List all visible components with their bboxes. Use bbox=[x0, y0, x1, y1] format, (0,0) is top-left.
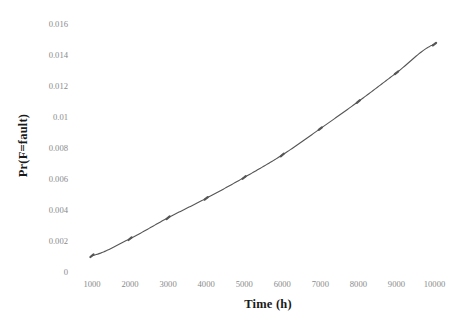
data-point-marker bbox=[357, 100, 360, 103]
data-point-marker bbox=[90, 254, 93, 257]
data-point-marker bbox=[281, 154, 284, 157]
x-axis-tick-label: 4000 bbox=[198, 279, 215, 289]
x-axis-tick-label: 9000 bbox=[388, 279, 405, 289]
x-axis-tick-labels: 1000200030004000500060007000800090001000… bbox=[0, 279, 469, 293]
data-series-line bbox=[92, 44, 435, 256]
x-axis-tick-label: 10000 bbox=[424, 279, 445, 289]
x-axis-tick-label: 2000 bbox=[121, 279, 138, 289]
x-axis-tick-label: 8000 bbox=[350, 279, 367, 289]
data-point-marker bbox=[205, 197, 208, 200]
data-point-marker bbox=[395, 72, 398, 75]
x-axis-tick-label: 5000 bbox=[236, 279, 253, 289]
data-point-marker bbox=[243, 176, 246, 179]
x-axis-tick-label: 3000 bbox=[160, 279, 177, 289]
data-point-markers bbox=[90, 43, 436, 257]
chart-figure: Pr(F=fault) 00.0020.0040.0060.0080.010.0… bbox=[0, 0, 469, 329]
data-point-marker bbox=[433, 43, 436, 46]
x-axis-title: Time (h) bbox=[80, 297, 456, 312]
x-axis-tick-label: 1000 bbox=[83, 279, 100, 289]
x-axis-tick-label: 7000 bbox=[312, 279, 329, 289]
data-point-marker bbox=[167, 216, 170, 219]
data-point-marker bbox=[128, 237, 131, 240]
data-point-marker bbox=[319, 127, 322, 130]
x-axis-tick-label: 6000 bbox=[274, 279, 291, 289]
